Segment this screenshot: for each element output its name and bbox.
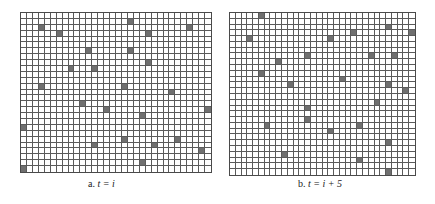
caption-b-prefix: b.: [298, 178, 306, 189]
caption-a-prefix: a.: [88, 178, 95, 189]
grid-cell: [409, 169, 415, 175]
grid-a: [20, 12, 212, 173]
caption-a: a. t = i: [88, 178, 115, 189]
caption-b: b. t = i + 5: [298, 178, 342, 189]
caption-b-expression: t = i + 5: [308, 178, 342, 189]
caption-a-expression: t = i: [97, 178, 114, 189]
grid-b: [229, 12, 416, 176]
grid-cell: [205, 166, 211, 172]
